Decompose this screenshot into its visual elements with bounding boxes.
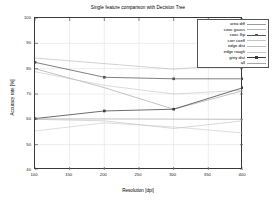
x-tick-label: 250 — [125, 172, 151, 177]
series-marker — [35, 61, 36, 64]
x-tick-label: 150 — [56, 172, 82, 177]
series-marker — [242, 78, 243, 81]
legend-line-sample — [247, 46, 266, 47]
chart-legend: area diffcooc gausscooc flipcorr coeffed… — [197, 19, 269, 68]
legend-line-sample — [247, 24, 266, 25]
series-marker — [103, 110, 106, 113]
legend-line-sample — [247, 52, 266, 53]
x-tick-label: 400 — [229, 172, 255, 177]
legend-line-sample — [247, 63, 266, 64]
legend-item[interactable]: all — [200, 60, 266, 66]
legend-item-swatch — [247, 60, 266, 66]
series-marker — [242, 86, 243, 89]
series-marker — [172, 78, 175, 81]
x-axis-tick-labels: 100150200250300350400 — [34, 172, 242, 182]
x-tick-label: 100 — [21, 172, 47, 177]
y-tick-label: 90 — [5, 40, 31, 45]
y-axis-tick-labels: 405060708090100 — [0, 17, 31, 169]
series-marker — [103, 76, 106, 79]
chart-figure: Single feature comparison with Decision … — [0, 0, 276, 202]
y-tick-label: 60 — [5, 116, 31, 121]
x-tick-label: 200 — [90, 172, 116, 177]
legend-marker-sample — [255, 56, 258, 59]
legend-line-sample — [247, 40, 266, 41]
y-tick-label: 70 — [5, 91, 31, 96]
x-axis-label: Resolution [dpi] — [0, 188, 276, 193]
y-tick-label: 40 — [5, 167, 31, 172]
y-tick-label: 100 — [5, 15, 31, 20]
series-marker — [172, 108, 175, 111]
legend-marker-sample — [255, 34, 258, 37]
x-tick-label: 350 — [194, 172, 220, 177]
chart-title: Single feature comparison with Decision … — [0, 5, 276, 10]
y-tick-label: 80 — [5, 65, 31, 70]
legend-item-label: all — [200, 60, 247, 66]
y-tick-label: 50 — [5, 141, 31, 146]
x-tick-label: 300 — [160, 172, 186, 177]
legend-line-sample — [247, 29, 266, 30]
